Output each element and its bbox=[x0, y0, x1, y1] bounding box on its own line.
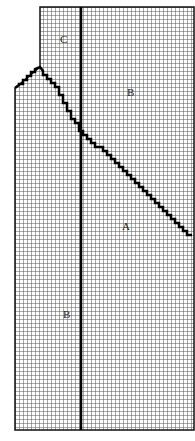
grid-region-diagram: C B A B bbox=[0, 0, 195, 441]
region-label-b-lower: B bbox=[63, 308, 70, 320]
region-label-c: C bbox=[60, 33, 67, 45]
region-label-b-upper: B bbox=[127, 86, 134, 98]
region-label-a: A bbox=[122, 220, 130, 232]
